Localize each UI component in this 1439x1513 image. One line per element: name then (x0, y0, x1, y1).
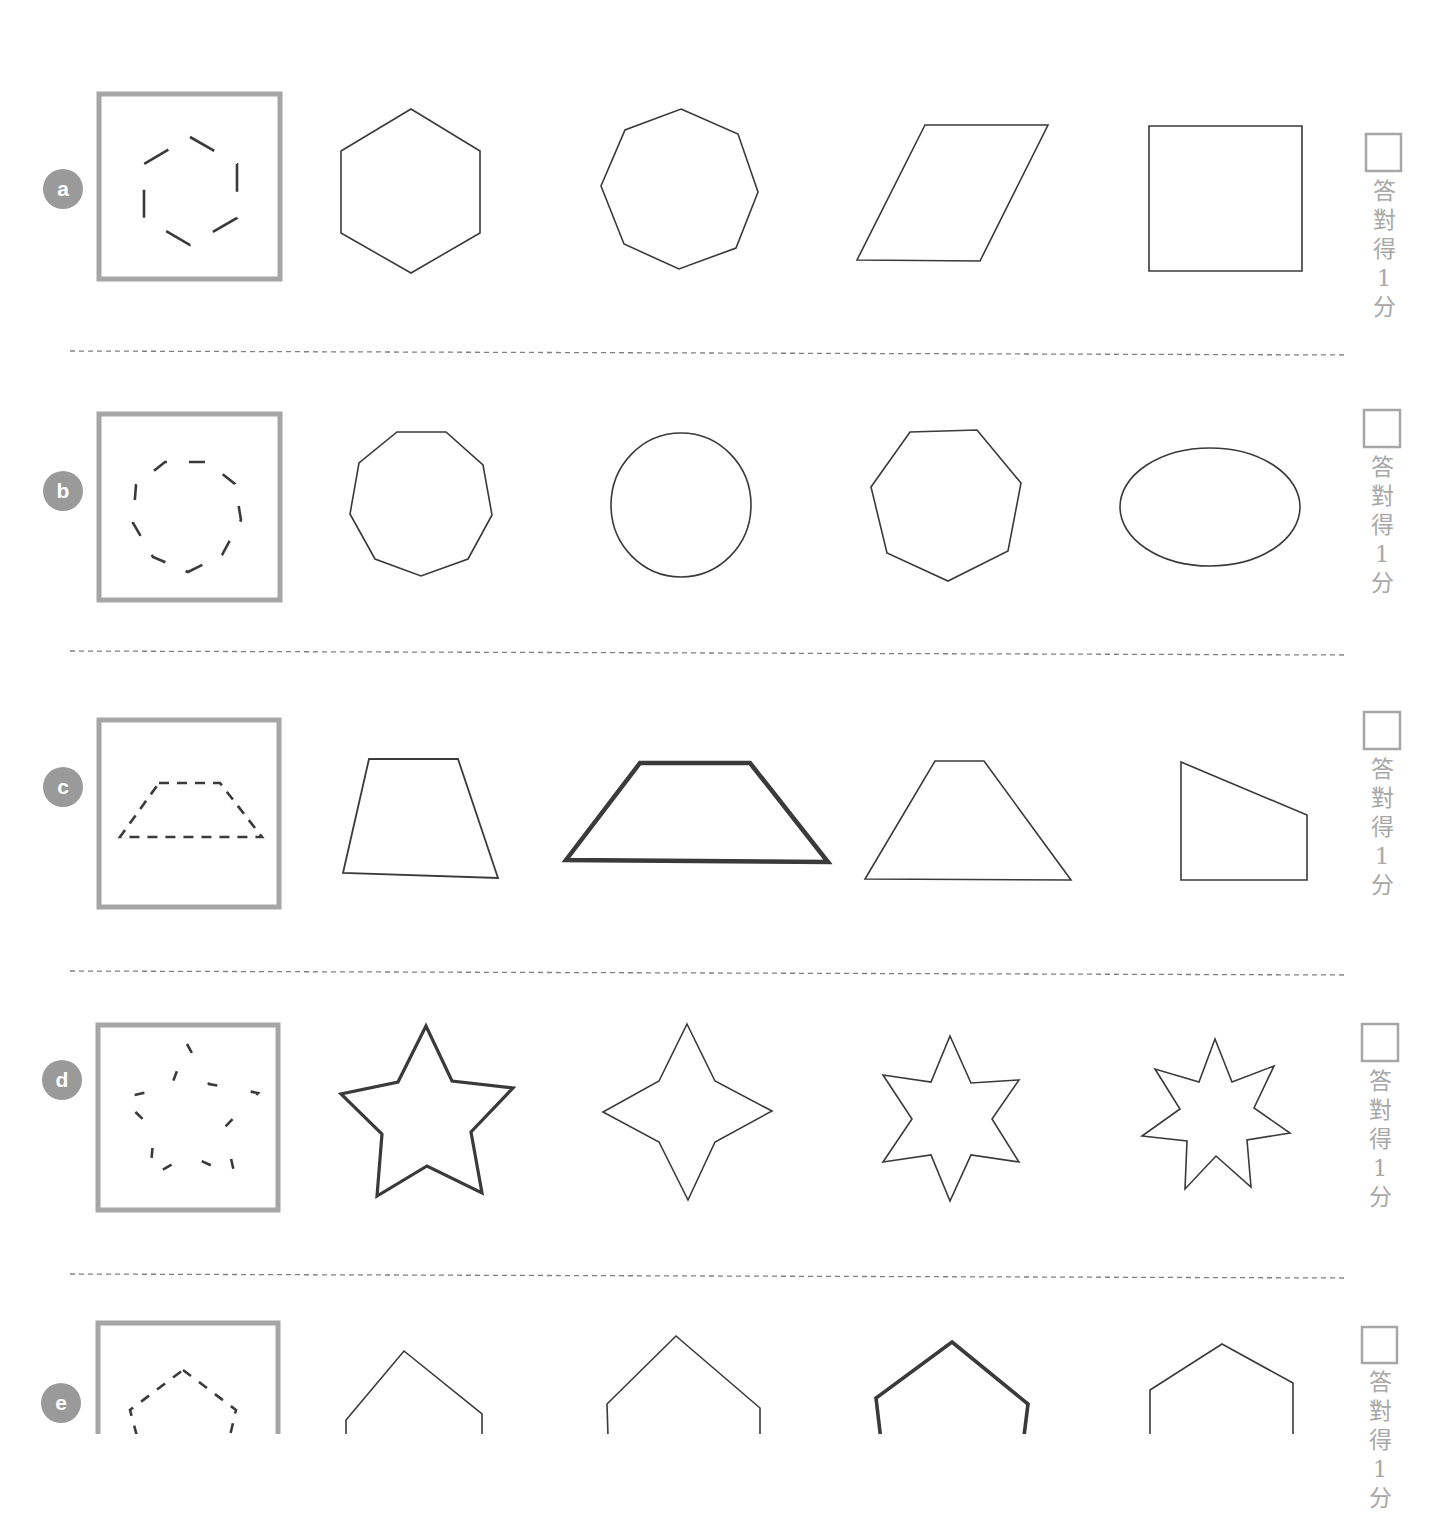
score-label-char: 得 (1364, 235, 1404, 264)
pentagon-b-shape[interactable] (607, 1336, 760, 1434)
answer-option-c-4[interactable] (1181, 762, 1307, 880)
answer-option-a-4[interactable] (1149, 126, 1302, 271)
square-shape[interactable] (1149, 126, 1302, 271)
answer-option-a-2[interactable] (601, 109, 758, 269)
reference-shape-dashed-pentagon (130, 1370, 236, 1434)
question-badge-a: a (43, 169, 83, 209)
answer-option-c-3[interactable] (865, 761, 1071, 880)
row-divider (70, 351, 1348, 355)
score-label-a: 答對得1分 (1364, 177, 1404, 322)
question-badge-c: c (43, 767, 83, 807)
six-point-star-shape[interactable] (883, 1036, 1019, 1201)
badge-letter: a (57, 177, 69, 200)
answer-option-d-1[interactable] (341, 1026, 513, 1196)
score-label-char: 答 (1362, 453, 1402, 482)
circle-shape[interactable] (611, 433, 751, 577)
score-label-char: 得 (1360, 1125, 1400, 1154)
answer-option-d-3[interactable] (883, 1036, 1019, 1201)
pentagon-bold-shape[interactable] (876, 1342, 1028, 1434)
reference-frame (98, 1025, 278, 1210)
score-label-char: 分 (1364, 293, 1404, 322)
badge-letter: b (57, 479, 70, 502)
answer-option-e-2[interactable] (607, 1336, 760, 1434)
octagon-shape[interactable] (601, 109, 758, 269)
nonagon-shape[interactable] (350, 432, 492, 576)
score-label-b: 答對得1分 (1362, 453, 1402, 598)
score-label-char: 對 (1364, 206, 1404, 235)
score-checkbox-e[interactable] (1362, 1327, 1397, 1363)
ellipse-shape[interactable] (1120, 448, 1300, 566)
score-label-char: 分 (1360, 1484, 1400, 1513)
score-label-char: 得 (1362, 511, 1402, 540)
answer-option-d-2[interactable] (603, 1024, 772, 1200)
badge-letter: d (56, 1068, 69, 1091)
question-badge-b: b (43, 471, 83, 511)
four-point-star-shape[interactable] (603, 1024, 772, 1200)
score-checkbox-a[interactable] (1366, 134, 1401, 171)
seven-point-star-shape[interactable] (1142, 1039, 1290, 1189)
answer-option-b-1[interactable] (350, 432, 492, 576)
score-checkbox-b[interactable] (1364, 410, 1400, 447)
five-point-star-shape[interactable] (341, 1026, 513, 1196)
answer-option-a-3[interactable] (857, 125, 1048, 261)
score-label-char: 1 (1362, 540, 1402, 569)
score-label-char: 得 (1360, 1426, 1400, 1455)
score-label-char: 答 (1360, 1067, 1400, 1096)
answer-option-c-2[interactable] (566, 763, 828, 862)
score-label-char: 1 (1362, 842, 1402, 871)
question-row-d: d (42, 1024, 1398, 1278)
pentagon-c-shape[interactable] (1150, 1344, 1293, 1434)
score-label-char: 分 (1362, 569, 1402, 598)
score-label-char: 對 (1362, 784, 1402, 813)
heptagon-shape[interactable] (871, 430, 1021, 581)
answer-option-c-1[interactable] (343, 759, 498, 878)
score-label-c: 答對得1分 (1362, 755, 1402, 900)
question-row-e: e (41, 1323, 1397, 1434)
reference-frame (99, 94, 280, 279)
score-label-char: 分 (1362, 871, 1402, 900)
answer-option-b-3[interactable] (871, 430, 1021, 581)
answer-option-b-4[interactable] (1120, 448, 1300, 566)
answer-option-e-4[interactable] (1150, 1344, 1293, 1434)
score-label-char: 1 (1364, 264, 1404, 293)
question-row-b: b (43, 410, 1400, 655)
answer-option-e-1[interactable] (346, 1351, 482, 1434)
answer-option-b-2[interactable] (611, 433, 751, 577)
reference-shape-dashed-star-5 (121, 1044, 258, 1177)
irregular-trapezoid-shape[interactable] (343, 759, 498, 878)
right-trapezoid-shape[interactable] (1181, 762, 1307, 880)
reference-frame (99, 720, 279, 907)
isosceles-trapezoid-bold-shape[interactable] (566, 763, 828, 862)
score-label-char: 答 (1364, 177, 1404, 206)
badge-letter: e (55, 1391, 67, 1414)
parallelogram-shape[interactable] (857, 125, 1048, 261)
reference-shape-dashed-nonagon (133, 462, 241, 572)
score-label-char: 對 (1362, 482, 1402, 511)
score-label-char: 對 (1360, 1397, 1400, 1426)
question-row-a: a (43, 94, 1401, 355)
row-divider (70, 651, 1348, 655)
score-label-d: 答對得1分 (1360, 1067, 1400, 1212)
reference-frame (98, 1323, 278, 1434)
score-checkbox-d[interactable] (1362, 1024, 1398, 1061)
score-label-char: 1 (1360, 1154, 1400, 1183)
answer-option-d-4[interactable] (1142, 1039, 1290, 1189)
row-divider (70, 1274, 1348, 1278)
question-row-c: c (43, 712, 1400, 975)
score-label-char: 分 (1360, 1183, 1400, 1212)
score-label-e: 答對得1分 (1360, 1368, 1400, 1513)
answer-option-a-1[interactable] (341, 109, 480, 273)
score-label-char: 對 (1360, 1096, 1400, 1125)
score-label-char: 答 (1360, 1368, 1400, 1397)
tall-trapezoid-shape[interactable] (865, 761, 1071, 880)
question-badge-d: d (42, 1060, 82, 1100)
hexagon-shape[interactable] (341, 109, 480, 273)
pentagon-a-shape[interactable] (346, 1351, 482, 1434)
answer-option-e-3[interactable] (876, 1342, 1028, 1434)
question-badge-e: e (41, 1383, 81, 1423)
score-label-char: 1 (1360, 1455, 1400, 1484)
score-checkbox-c[interactable] (1364, 712, 1400, 749)
score-label-char: 答 (1362, 755, 1402, 784)
row-divider (70, 971, 1348, 975)
